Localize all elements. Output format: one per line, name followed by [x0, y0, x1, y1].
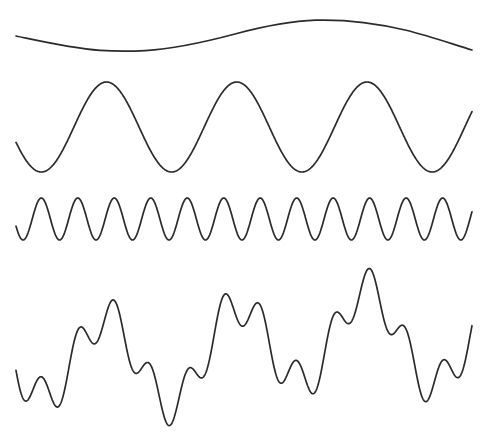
wave-2-mid-frequency-path	[16, 82, 472, 172]
wave-4-superposition-sum-path	[16, 268, 472, 425]
wave-canvas	[0, 0, 490, 437]
wave-3-high-frequency-path	[16, 198, 472, 240]
wave-superposition-figure	[0, 0, 490, 437]
wave-1-low-frequency-path	[16, 20, 472, 51]
